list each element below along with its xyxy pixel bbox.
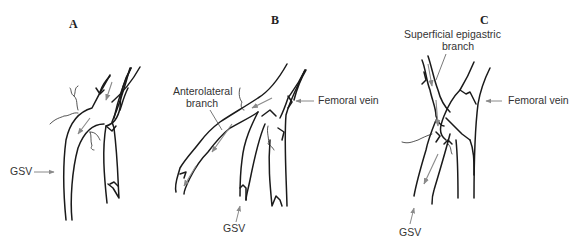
- label-gsv-c: GSV: [399, 226, 421, 238]
- gsv-pointer-c: [410, 208, 414, 224]
- twigs-b: [239, 88, 274, 150]
- gsv-c: [414, 120, 452, 204]
- femoral-vein-a: [100, 67, 140, 203]
- label-superficial-epigastric-line2: branch: [442, 40, 474, 52]
- label-anterolateral-line1: Anterolateral: [173, 85, 233, 97]
- flow-arrow-b3: [184, 166, 196, 186]
- flow-arrow-c3: [424, 154, 438, 184]
- label-gsv-a: GSV: [10, 165, 32, 177]
- superficial-epigastric-leader: [436, 54, 446, 80]
- panel-letter-c: C: [480, 13, 489, 27]
- anterolateral-leader: [210, 110, 222, 130]
- vein-anatomy-diagram: A GSV: [0, 0, 581, 249]
- panel-b: B: [173, 13, 379, 234]
- label-gsv-b: GSV: [223, 222, 245, 234]
- twigs-a: [50, 86, 100, 150]
- label-superficial-epigastric-line1: Superficial epigastric: [404, 28, 501, 40]
- flow-arrow-b2: [212, 124, 232, 152]
- anterolateral-branch-b: [175, 64, 287, 194]
- panel-a: A GSV: [10, 17, 140, 220]
- femoral-vein-c: [441, 62, 491, 198]
- gsv-a: [64, 75, 110, 220]
- panel-c: C: [399, 13, 569, 238]
- label-anterolateral-line2: branch: [186, 97, 218, 109]
- panel-letter-b: B: [271, 13, 279, 27]
- gsv-pointer-b: [236, 206, 240, 222]
- superficial-epigastric-branch-c: [422, 56, 450, 126]
- label-femoral-vein-b: Femoral vein: [318, 94, 379, 106]
- femoral-vein-b: [269, 70, 306, 206]
- panel-letter-a: A: [69, 17, 78, 31]
- label-femoral-vein-c: Femoral vein: [508, 94, 569, 106]
- flow-arrow-a1: [106, 82, 112, 100]
